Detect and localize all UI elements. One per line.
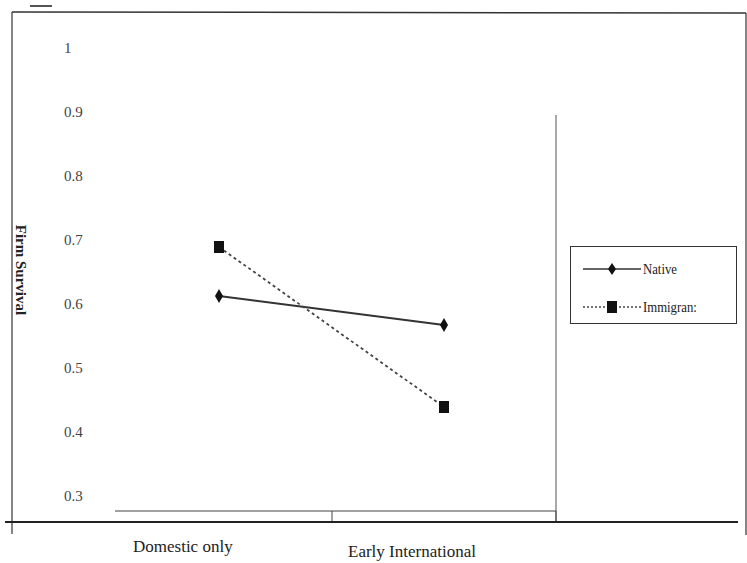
x-category-label-early-international: Early International [348,542,476,562]
legend-item-immigrant: Immigran: [571,297,736,317]
y-tick-label: 1 [64,40,72,57]
legend-label-native: Native [643,261,677,278]
y-tick-label: 0.5 [64,360,83,377]
legend-label-immigrant: Immigran: [643,299,697,316]
y-tick-label: 0.7 [64,232,83,249]
series-native-marker-domestic [215,289,223,303]
legend-swatch-native [581,259,643,279]
series-immigrant-marker-domestic [214,241,224,253]
y-tick-label: 0.9 [64,104,83,121]
square-marker-icon [581,297,643,317]
frame-top [12,12,746,13]
y-axis-title: Firm Survival [12,225,29,315]
series-immigrant-line [219,247,444,407]
y-tick-label: 0.6 [64,296,83,313]
legend: Native Immigran: [570,246,737,324]
y-tick-label: 0.8 [64,168,83,185]
series-native-marker-early-intl [440,318,448,332]
legend-item-native: Native [571,259,736,279]
x-category-label-domestic: Domestic only [133,537,233,557]
diamond-marker-icon [581,259,643,279]
legend-swatch-immigrant [581,297,643,317]
y-tick-label: 0.4 [64,424,83,441]
series-immigrant-marker-early-intl [439,401,449,413]
y-tick-label: 0.3 [64,488,83,505]
series-native-line [219,296,444,325]
